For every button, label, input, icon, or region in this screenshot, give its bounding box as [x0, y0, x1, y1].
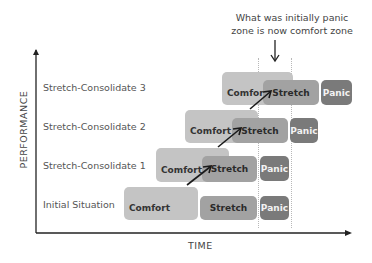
comfort-label: Comfort [227, 88, 268, 98]
x-axis [36, 230, 352, 236]
annotation-arrow-icon [271, 40, 279, 61]
row-label-stretch-consolidate-3: Stretch-Consolidate 3 [43, 82, 146, 94]
stretch-zone-box: Stretch [202, 156, 257, 182]
row-label-stretch-consolidate-1: Stretch-Consolidate 1 [43, 160, 146, 172]
panic-label: Panic [323, 88, 350, 98]
panic-zone-box: Panic [290, 118, 318, 143]
panic-zone-box: Panic [260, 156, 289, 181]
y-axis [33, 49, 39, 233]
comfort-label: Comfort [129, 203, 170, 213]
stretch-zone-box: Stretch [232, 118, 288, 143]
panic-label: Panic [261, 203, 288, 213]
panic-zone-box: Panic [260, 196, 289, 220]
comfort-label: Comfort [161, 165, 202, 175]
row-label-initial-situation: Initial Situation [43, 199, 115, 211]
x-axis-label: TIME [188, 240, 213, 251]
stretch-zone-box: Stretch [263, 80, 319, 105]
comfort-zone-box: Comfort [124, 187, 198, 220]
panic-zone-box: Panic [321, 80, 352, 105]
panic-label: Panic [261, 164, 288, 174]
stretch-label: Stretch [210, 203, 247, 213]
panic-label: Panic [290, 126, 317, 136]
stretch-zone-box: Stretch [200, 196, 257, 220]
row-label-stretch-consolidate-2: Stretch-Consolidate 2 [43, 121, 146, 133]
stretch-label: Stretch [241, 126, 278, 136]
stretch-label: Stretch [211, 164, 248, 174]
y-axis-label: PERFORMANCE [18, 99, 29, 169]
comfort-label: Comfort [190, 126, 231, 136]
stretch-label: Stretch [272, 88, 309, 98]
